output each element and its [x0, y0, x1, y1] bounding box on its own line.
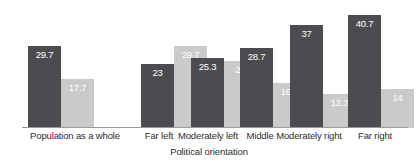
- x-tick-label-moderately-left: Moderately left: [169, 129, 247, 143]
- bar-light[interactable]: 17.7: [61, 79, 94, 128]
- x-tick-label-far-right: Far right: [350, 129, 400, 143]
- bar-dark[interactable]: 37: [290, 25, 323, 128]
- bar-dark[interactable]: 25.3: [191, 58, 224, 128]
- bar-value-label: 37: [290, 28, 323, 39]
- bar-value-label: 14: [381, 92, 414, 103]
- x-axis-tick-labels: Population as a whole Far left Moderatel…: [0, 129, 418, 145]
- bar-group: 40.7 14: [348, 0, 414, 128]
- bar-dark[interactable]: 28.7: [240, 48, 273, 128]
- bar-value-label: 17.7: [61, 82, 94, 93]
- bar-dark[interactable]: 40.7: [348, 15, 381, 128]
- bar-value-label: 29.7: [28, 49, 61, 60]
- plot-area: 29.7 17.7 23 29.7 25.3 24: [0, 0, 418, 128]
- bar-group: 37 12.3: [290, 0, 356, 128]
- x-axis-line: [22, 127, 408, 128]
- bar-dark[interactable]: 29.7: [28, 46, 61, 129]
- bar-value-label: 25.3: [191, 61, 224, 72]
- x-tick-label-population-as-a-whole: Population as a whole: [15, 129, 135, 143]
- x-tick-label-moderately-right: Moderately right: [266, 129, 352, 143]
- bar-group: 29.7 17.7: [28, 0, 94, 128]
- bar-value-label: 40.7: [348, 18, 381, 29]
- bar-dark[interactable]: 23: [141, 64, 174, 128]
- x-axis-title: Political orientation: [0, 145, 418, 158]
- bar-value-label: 28.7: [240, 51, 273, 62]
- bar-light[interactable]: 14: [381, 89, 414, 128]
- bar-value-label: 23: [141, 67, 174, 78]
- bar-chart: 29.7 17.7 23 29.7 25.3 24: [0, 0, 418, 163]
